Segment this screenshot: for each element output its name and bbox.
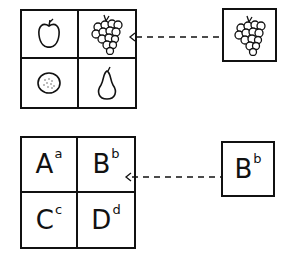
apple-icon [35, 17, 63, 51]
dashed-arrow-bottom [124, 172, 222, 182]
cell-apple [22, 11, 79, 59]
letter-c: Cc [36, 207, 62, 233]
source-box-b: Bb [221, 141, 275, 197]
cell-c: Cc [22, 193, 78, 248]
grapes-icon [233, 14, 267, 56]
letter-grid: Aa Bb Cc Dd [20, 136, 136, 249]
cell-orange [22, 59, 79, 107]
dashed-arrow-top [128, 32, 224, 42]
cell-pear [79, 59, 136, 107]
source-box-grapes [222, 8, 277, 62]
orange-icon [35, 70, 63, 96]
cell-b: Bb [78, 138, 134, 193]
letter-a: Aa [36, 151, 63, 177]
letter-b: Bb [92, 151, 119, 177]
cell-a: Aa [22, 138, 78, 193]
letter-d: Dd [91, 207, 120, 233]
pear-icon [94, 65, 120, 101]
grapes-icon [90, 13, 124, 55]
cell-grapes [79, 11, 136, 59]
fruit-grid [20, 9, 137, 109]
cell-d: Dd [78, 193, 134, 248]
letter-b-source: Bb [234, 156, 261, 182]
